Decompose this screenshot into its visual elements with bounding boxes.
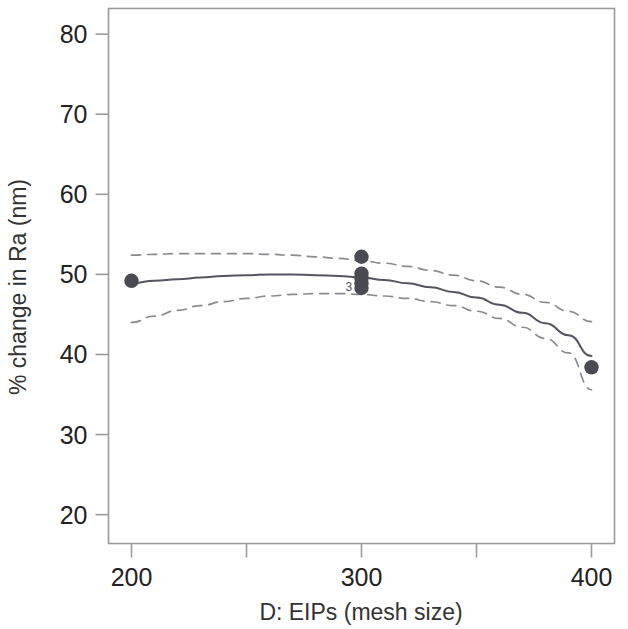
data-point [124,274,138,288]
x-tick-label: 200 [111,563,153,591]
point-annotations-group: 3 [346,280,353,294]
y-tick-label: 60 [60,180,88,208]
data-point [584,360,598,374]
data-point [354,250,368,264]
point-count-annotation: 3 [346,280,353,294]
scatter-plot: 20304050607080 200300400 3 D: EIPs (mesh… [0,0,628,629]
x-tick-label: 400 [571,563,613,591]
chart-background [0,0,628,629]
data-point [354,281,368,295]
y-tick-label: 40 [60,340,88,368]
x-axis-title: D: EIPs (mesh size) [259,599,462,625]
y-tick-label: 30 [60,421,88,449]
y-tick-label: 50 [60,260,88,288]
x-tick-label: 300 [341,563,383,591]
chart-figure: 20304050607080 200300400 3 D: EIPs (mesh… [0,0,628,629]
y-tick-label: 20 [60,501,88,529]
y-axis-title: % change in Ra (nm) [5,179,31,395]
y-tick-label: 70 [60,100,88,128]
y-tick-label: 80 [60,20,88,48]
